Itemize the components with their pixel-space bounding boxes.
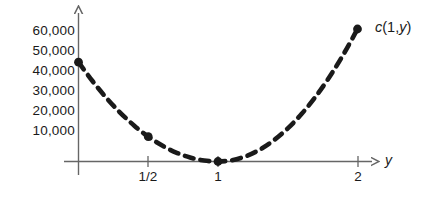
ytick-label-50000: 50,000	[13, 43, 75, 58]
ytick-label-30000: 30,000	[13, 83, 75, 98]
curve-marker-dot	[214, 157, 223, 166]
curve-marker-dot	[353, 25, 362, 34]
xtick-label-half: 1/2	[139, 169, 158, 184]
xtick-label-two: 2	[354, 169, 362, 184]
ytick-label-20000: 20,000	[13, 103, 75, 118]
curve-marker-dot	[74, 58, 83, 67]
chart-figure: 60,000 50,000 40,000 30,000 20,000 10,00…	[0, 0, 425, 200]
cost-curve-path	[79, 29, 358, 162]
curve-annotation-label: c(1,y)	[375, 19, 411, 35]
annotation-open-paren: (1,	[382, 19, 399, 35]
curve-marker-dot	[144, 132, 153, 141]
annotation-close-paren: )	[406, 19, 411, 35]
ytick-label-60000: 60,000	[13, 23, 75, 38]
ytick-label-10000: 10,000	[13, 123, 75, 138]
x-axis-label: y	[385, 152, 392, 168]
ytick-label-40000: 40,000	[13, 63, 75, 78]
xtick-label-one: 1	[214, 169, 222, 184]
curve-marker-dots	[74, 25, 362, 166]
